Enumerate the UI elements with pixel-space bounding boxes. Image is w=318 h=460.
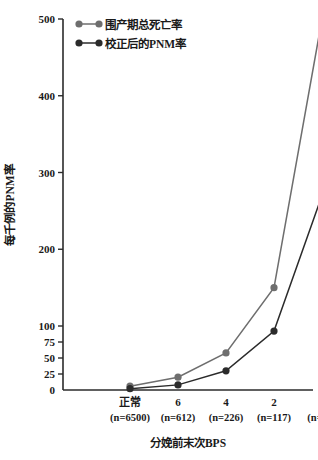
y-tick-label: 25 xyxy=(44,368,56,380)
x-category-count: (n=226) xyxy=(209,412,244,424)
data-point xyxy=(222,367,229,374)
series-2 xyxy=(126,192,318,392)
y-tick-label: 500 xyxy=(39,13,56,25)
x-category-count: (n=28) xyxy=(307,412,318,424)
y-tick-label: 100 xyxy=(39,320,56,332)
data-point xyxy=(174,381,181,388)
data-point xyxy=(270,284,277,291)
x-category-label: 正常 xyxy=(119,395,141,408)
legend-label: 围产期总死亡率 xyxy=(105,18,183,31)
data-point xyxy=(270,328,277,335)
y-axis-title: 每千例的PNM率 xyxy=(3,163,16,245)
x-axis-title: 分娩前末次BPS xyxy=(150,436,226,449)
pnm-rate-line-chart: 0255075100200300400500 正常(n=6500)6(n=612… xyxy=(0,0,318,460)
series-line xyxy=(130,196,318,389)
y-tick-label: 200 xyxy=(39,243,56,255)
series-layer xyxy=(126,15,318,392)
y-tick-label: 0 xyxy=(50,384,56,396)
x-category-count: (n=612) xyxy=(161,412,196,424)
chart-figure: 0255075100200300400500 正常(n=6500)6(n=612… xyxy=(0,0,318,460)
legend-item-1: 围产期总死亡率 xyxy=(75,18,183,31)
series-line xyxy=(130,19,318,386)
data-point xyxy=(222,349,229,356)
y-axis-ticks: 0255075100200300400500 xyxy=(39,13,64,396)
chart-legend: 围产期总死亡率校正后的PNM率 xyxy=(75,18,187,50)
y-tick-label: 400 xyxy=(39,90,56,102)
y-tick-label: 50 xyxy=(44,352,56,364)
y-tick-label: 75 xyxy=(44,336,56,348)
x-category-count: (n=117) xyxy=(257,412,291,424)
x-axis-ticks: 正常(n=6500)6(n=612)4(n=226)2(n=117)0(n=28… xyxy=(110,395,318,424)
legend-label: 校正后的PNM率 xyxy=(105,37,187,50)
x-category-count: (n=6500) xyxy=(110,412,150,424)
legend-marker xyxy=(75,20,82,27)
legend-item-2: 校正后的PNM率 xyxy=(75,37,187,50)
legend-marker xyxy=(95,39,102,46)
legend-marker xyxy=(75,39,82,46)
data-point xyxy=(174,374,181,381)
x-category-label: 6 xyxy=(175,396,181,408)
legend-marker xyxy=(95,20,102,27)
data-point xyxy=(126,385,133,392)
series-1 xyxy=(126,15,318,389)
y-tick-label: 300 xyxy=(39,167,56,179)
x-category-label: 2 xyxy=(271,396,277,408)
x-category-label: 4 xyxy=(223,396,229,408)
